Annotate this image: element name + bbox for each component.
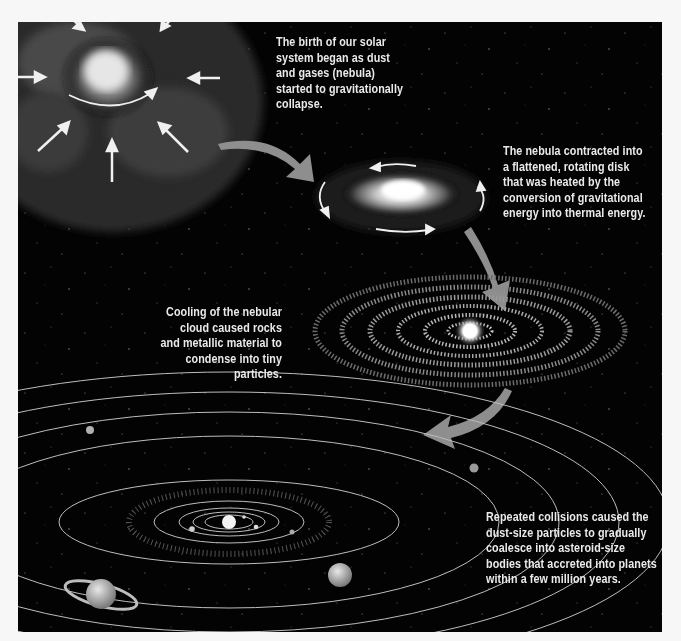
caption-rotating-disk: The nebula contracted into a flattened, … [503,144,662,222]
caption-nebula-collapse: The birth of our solar system began as d… [276,35,482,113]
planet-neptune [470,464,479,473]
planet-venus [254,525,259,530]
planet-mars [290,530,295,535]
caption-condensation: Cooling of the nebular cloud caused rock… [76,305,282,383]
planet-uranus [86,426,94,434]
proto-sun-core [463,324,477,338]
rotating-disk [316,161,486,233]
planet-earth [189,526,195,532]
diagram-panel: The birth of our solar system began as d… [18,22,662,632]
sun [222,515,236,529]
planet-mercury [242,515,246,519]
caption-accretion: Repeated collisions caused the dust-size… [486,510,662,588]
planet-jupiter [328,563,352,587]
